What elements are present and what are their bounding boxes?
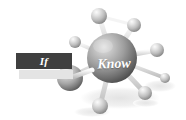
ground-shadows [74,80,176,117]
screenshot-canvas: If Know [0,0,186,120]
if-bar-shadow [19,70,73,79]
if-label: If [16,53,72,69]
know-label: Know [90,54,139,74]
